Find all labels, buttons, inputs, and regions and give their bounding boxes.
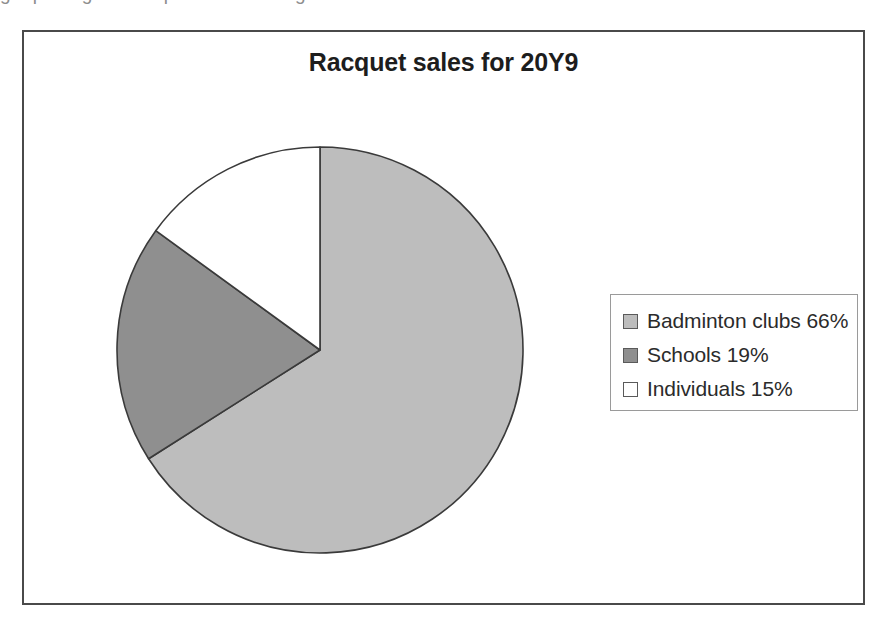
chart-legend: Badminton clubs 66% Schools 19% Individu… bbox=[610, 294, 858, 411]
chart-title: Racquet sales for 20Y9 bbox=[24, 48, 863, 77]
pie-chart-svg bbox=[114, 144, 526, 556]
legend-swatch-badminton-clubs-icon bbox=[623, 314, 638, 329]
legend-swatch-individuals-icon bbox=[623, 382, 638, 397]
page-top-text-bleed-label: g p g p g bbox=[0, 0, 306, 5]
chart-frame: Racquet sales for 20Y9 Badminton clubs 6… bbox=[22, 30, 865, 605]
legend-label-badminton-clubs: Badminton clubs 66% bbox=[647, 309, 848, 333]
legend-swatch-schools-icon bbox=[623, 348, 638, 363]
pie-chart-plot-area bbox=[114, 144, 526, 556]
legend-item-schools[interactable]: Schools 19% bbox=[623, 339, 857, 371]
legend-label-schools: Schools 19% bbox=[647, 343, 768, 367]
legend-label-individuals: Individuals 15% bbox=[647, 377, 793, 401]
page-top-text-bleed: g p g p g bbox=[0, 0, 883, 12]
legend-item-individuals[interactable]: Individuals 15% bbox=[623, 373, 857, 405]
legend-item-badminton-clubs[interactable]: Badminton clubs 66% bbox=[623, 305, 857, 337]
